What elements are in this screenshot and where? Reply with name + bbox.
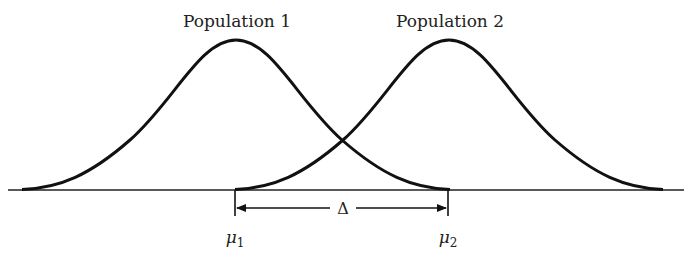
- diagram-canvas: Population 1 Population 2 Δ μ1 μ2: [0, 0, 694, 254]
- mean-2-symbol: μ: [439, 227, 450, 247]
- mean-1-symbol: μ: [226, 227, 237, 247]
- mean-2-label: μ2: [439, 227, 458, 250]
- mean-2-subscript: 2: [450, 236, 458, 250]
- population-2-label: Population 2: [396, 11, 504, 31]
- population-1-label: Population 1: [183, 11, 291, 31]
- normal-distributions-diagram: Population 1 Population 2 Δ μ1 μ2: [0, 0, 694, 254]
- population-2-curve: [235, 40, 663, 190]
- mean-1-label: μ1: [226, 227, 245, 250]
- mean-1-subscript: 1: [237, 236, 245, 250]
- population-1-curve: [22, 40, 450, 190]
- delta-label: Δ: [337, 199, 349, 218]
